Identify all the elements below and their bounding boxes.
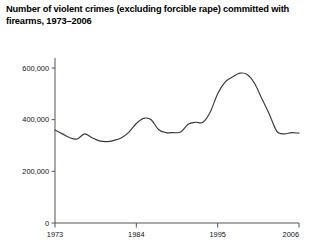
y-tick-label: 600,000 xyxy=(22,64,49,73)
plot-area: 0200,000400,000600,000 1973198419952006 xyxy=(0,0,313,246)
x-tick-label: 1995 xyxy=(209,230,225,239)
y-axis: 0200,000400,000600,000 xyxy=(22,58,55,228)
y-tick-label: 400,000 xyxy=(22,115,49,124)
y-tick-label: 0 xyxy=(45,219,49,228)
x-tick-label: 1973 xyxy=(47,230,63,239)
y-tick-label: 200,000 xyxy=(22,167,49,176)
x-tick-label: 1984 xyxy=(128,230,144,239)
x-axis: 1973198419952006 xyxy=(47,223,299,239)
x-tick-label: 2006 xyxy=(283,230,299,239)
data-series-group xyxy=(55,73,299,142)
chart-screenshot: Number of violent crimes (excluding forc… xyxy=(0,0,313,246)
data-line xyxy=(55,73,299,142)
line-chart-svg: 0200,000400,000600,000 1973198419952006 xyxy=(0,0,313,246)
